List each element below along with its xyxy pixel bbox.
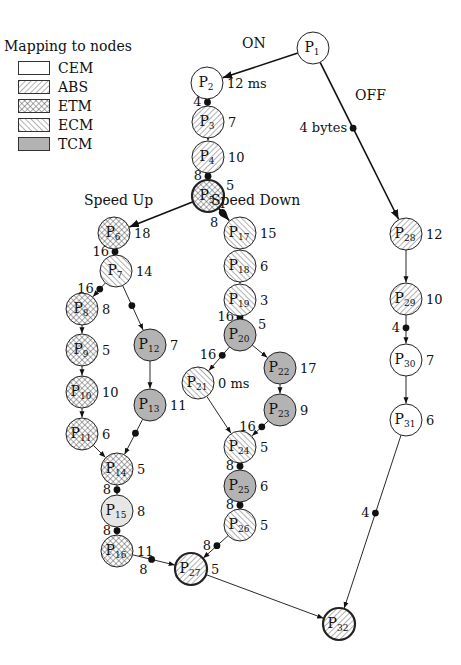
node-p25: P256 xyxy=(224,470,268,502)
node-p30: P307 xyxy=(390,344,434,376)
edge-p31-p32 xyxy=(344,435,401,608)
legend-label: CEM xyxy=(58,60,93,76)
message-dot xyxy=(372,510,379,517)
node-p1: P1 xyxy=(297,32,329,64)
legend-swatch-ecm xyxy=(18,118,50,132)
message-dot xyxy=(96,286,103,293)
legend-item-etm: ETM xyxy=(18,96,132,115)
message-size-label: 4 xyxy=(361,505,369,520)
legend-title: Mapping to nodes xyxy=(4,38,132,54)
legend-item-abs: ABS xyxy=(18,77,132,96)
branch-label: ON xyxy=(242,35,266,51)
edge-p20-p22 xyxy=(252,345,267,357)
node-annotation: 11 xyxy=(170,398,187,413)
message-dot xyxy=(114,527,121,534)
node-annotation: 5 xyxy=(226,178,234,193)
branch-label: Speed Up xyxy=(84,192,153,208)
node-p4: P410 xyxy=(192,141,245,173)
node-p15: P158 xyxy=(101,495,145,527)
edge-p1-p2 xyxy=(223,53,298,78)
node-annotation: 3 xyxy=(260,293,268,308)
edge-p13-p14 xyxy=(125,419,143,454)
node-annotation: 5 xyxy=(258,317,266,332)
node-p7: P714 xyxy=(100,255,153,287)
node-annotation: 10 xyxy=(228,150,245,165)
node-annotation: 6 xyxy=(260,479,268,494)
legend-label: ECM xyxy=(58,117,93,133)
edge-p1-p28 xyxy=(320,62,398,219)
node-p10: P1010 xyxy=(66,376,119,408)
node-p8: P88 xyxy=(66,293,110,325)
message-dot xyxy=(132,430,139,437)
node-p32: P32 xyxy=(323,608,355,640)
branch-label: Speed Down xyxy=(211,192,300,208)
node-annotation: 15 xyxy=(260,226,277,241)
node-p26: P265 xyxy=(224,509,268,541)
node-p21: P210 ms xyxy=(182,367,249,399)
node-annotation: 14 xyxy=(136,264,153,279)
message-dot xyxy=(237,463,244,470)
legend: Mapping to nodes CEM ABS ETM ECM TCM xyxy=(4,38,132,153)
edge-p27-p32 xyxy=(206,575,324,619)
node-annotation: 5 xyxy=(137,462,145,477)
legend-item-ecm: ECM xyxy=(18,115,132,134)
node-annotation: 18 xyxy=(134,226,151,241)
node-annotation: 10 xyxy=(102,385,119,400)
node-annotation: 6 xyxy=(260,259,268,274)
edge-p11-p14 xyxy=(93,445,105,457)
message-size-label: 4 bytes xyxy=(299,120,347,135)
message-dot xyxy=(204,99,211,106)
legend-swatch-tcm xyxy=(18,137,50,151)
message-size-label: 8 xyxy=(103,482,111,497)
node-p3: P37 xyxy=(192,106,236,138)
node-annotation: 8 xyxy=(102,302,110,317)
node-annotation: 12 ms xyxy=(227,76,267,91)
message-dot xyxy=(128,302,135,309)
node-p19: P193 xyxy=(224,284,268,316)
legend-label: TCM xyxy=(58,136,92,152)
edge-p21-p24 xyxy=(207,396,231,433)
node-p11: P116 xyxy=(66,418,110,450)
message-dot xyxy=(114,486,121,493)
node-p17: P1715 xyxy=(224,217,277,249)
node-annotation: 0 ms xyxy=(218,376,249,391)
node-p14: P145 xyxy=(101,453,145,485)
legend-label: ETM xyxy=(58,98,92,114)
node-annotation: 17 xyxy=(300,361,317,376)
message-size-label: 8 xyxy=(203,538,211,553)
node-annotation: 12 xyxy=(426,227,443,242)
node-annotation: 9 xyxy=(300,403,308,418)
node-p9: P95 xyxy=(66,334,110,366)
message-dot xyxy=(219,352,226,359)
node-p13: P1311 xyxy=(134,389,187,421)
message-dot xyxy=(214,542,221,549)
node-p12: P127 xyxy=(134,329,178,361)
message-dot xyxy=(237,502,244,509)
message-dot xyxy=(350,125,357,132)
message-size-label: 16 xyxy=(200,347,217,362)
node-annotation: 6 xyxy=(102,427,110,442)
node-annotation: 10 xyxy=(426,292,443,307)
branch-label: OFF xyxy=(355,87,386,103)
node-annotation: 8 xyxy=(137,504,145,519)
node-p22: P2217 xyxy=(264,352,317,384)
legend-swatch-etm xyxy=(18,99,50,113)
node-annotation: 7 xyxy=(170,338,178,353)
legend-label: ABS xyxy=(58,79,88,95)
message-dot xyxy=(219,209,226,216)
legend-swatch-cem xyxy=(18,61,50,75)
node-p18: P186 xyxy=(224,250,268,282)
node-annotation: 7 xyxy=(426,353,434,368)
message-size-label: 4 xyxy=(392,320,400,335)
node-annotation: 5 xyxy=(260,440,268,455)
message-dot xyxy=(403,324,410,331)
node-p2: P212 ms xyxy=(191,67,267,99)
node-annotation: 7 xyxy=(228,115,236,130)
node-annotation: 5 xyxy=(102,343,110,358)
node-annotation: 6 xyxy=(426,413,434,428)
node-annotation: 5 xyxy=(260,518,268,533)
legend-swatch-abs xyxy=(18,80,50,94)
node-p23: P239 xyxy=(264,394,308,426)
node-p24: P245 xyxy=(224,431,268,463)
node-p29: P2910 xyxy=(390,283,443,315)
